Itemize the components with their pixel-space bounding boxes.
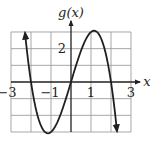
x-axis-label: x [143, 74, 151, 89]
x-tick-label-3: 3 [127, 85, 135, 100]
x-tick-label-neg3: −3 [0, 85, 17, 100]
y-axis-label: g(x) [58, 5, 84, 20]
x-tick-label-neg1: −1 [40, 85, 59, 100]
x-tick-label-1: 1 [87, 85, 95, 100]
y-tick-label-2: 2 [58, 41, 66, 56]
graph-canvas: g(x) x −3 −1 1 3 2 [0, 0, 156, 144]
